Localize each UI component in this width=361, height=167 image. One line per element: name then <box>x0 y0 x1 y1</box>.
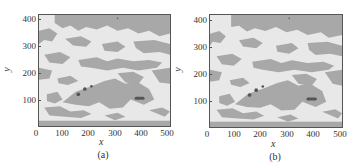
ytick-mark <box>209 20 212 21</box>
y-axis-label: y <box>1 67 12 71</box>
ytick-label: 100 <box>12 96 36 105</box>
heatmap-plot-b <box>209 14 343 128</box>
panel-caption: (b) <box>260 151 290 162</box>
ytick-mark <box>38 73 41 74</box>
y-axis-label: y <box>172 67 183 71</box>
xtick-label: 300 <box>275 130 299 139</box>
xtick-label: 400 <box>301 130 325 139</box>
ytick-label: 300 <box>183 43 207 52</box>
x-axis-label: x <box>271 138 275 149</box>
ytick-label: 300 <box>12 42 36 51</box>
ytick-mark <box>209 47 212 48</box>
ytick-mark <box>38 46 41 47</box>
ytick-label: 200 <box>183 70 207 79</box>
xtick-label: 0 <box>195 130 219 139</box>
ytick-mark <box>38 100 41 101</box>
field-map-a <box>39 15 170 126</box>
x-axis-label: x <box>99 136 103 147</box>
xtick-label: 300 <box>103 129 127 138</box>
xtick-label: 0 <box>24 129 48 138</box>
ytick-label: 400 <box>12 15 36 24</box>
panel-b: 100 200 300 400 0 100 200 300 400 500 x … <box>171 0 351 167</box>
panel-a: 100 200 300 400 0 100 200 300 400 500 x … <box>0 0 180 167</box>
xtick-label: 100 <box>222 130 246 139</box>
heatmap-plot-a <box>38 14 171 127</box>
xtick-label: 500 <box>328 130 352 139</box>
ytick-label: 400 <box>183 16 207 25</box>
ytick-mark <box>209 74 212 75</box>
ytick-label: 200 <box>12 69 36 78</box>
ytick-mark <box>38 19 41 20</box>
field-map-b <box>210 15 342 127</box>
ytick-label: 100 <box>183 97 207 106</box>
xtick-label: 200 <box>248 130 272 139</box>
panel-caption: (a) <box>88 149 118 160</box>
ytick-mark <box>209 101 212 102</box>
xtick-label: 200 <box>76 129 100 138</box>
xtick-label: 100 <box>50 129 74 138</box>
xtick-label: 400 <box>129 129 153 138</box>
